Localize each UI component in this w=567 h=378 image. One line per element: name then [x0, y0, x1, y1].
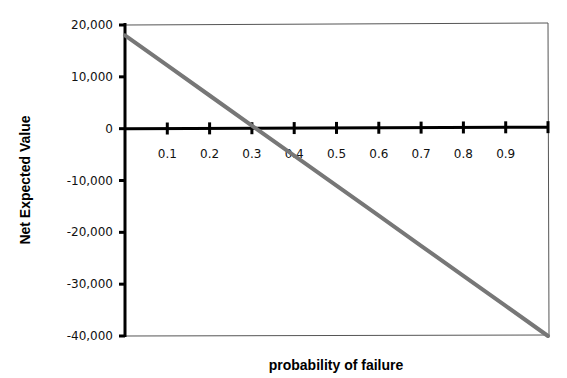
- y-tick-label: -20,000: [67, 225, 113, 239]
- x-tick-label: 0.1: [158, 147, 177, 161]
- x-tick-label: 0.9: [496, 147, 515, 161]
- y-tick-label: -10,000: [67, 174, 113, 188]
- y-tick-label: 0: [105, 122, 113, 136]
- y-tick-label: -40,000: [67, 329, 113, 343]
- y-tick-label: 10,000: [71, 70, 113, 84]
- net-expected-value-line: [125, 35, 548, 336]
- line-chart: 20,00010,0000-10,000-20,000-30,000-40,00…: [0, 0, 567, 378]
- y-tick-label: 20,000: [71, 18, 113, 32]
- y-axis: 20,00010,0000-10,000-20,000-30,000-40,00…: [67, 18, 125, 343]
- y-tick-label: -30,000: [67, 277, 113, 291]
- y-axis-title: Net Expected Value: [17, 115, 33, 244]
- x-tick-label: 0.7: [412, 147, 431, 161]
- x-tick-label: 0.3: [242, 147, 261, 161]
- x-tick-label: 0.2: [200, 147, 219, 161]
- x-axis: 0.10.20.30.40.50.60.70.80.9: [125, 121, 548, 161]
- plot-frame: [125, 23, 549, 336]
- x-tick-label: 0.8: [454, 147, 473, 161]
- x-tick-label: 0.6: [369, 147, 388, 161]
- x-tick-label: 0.5: [327, 147, 346, 161]
- x-axis-title: probability of failure: [269, 357, 404, 373]
